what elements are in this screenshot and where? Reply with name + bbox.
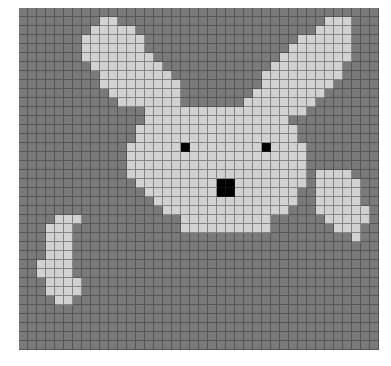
pixel-cell-light[interactable]	[280, 98, 289, 107]
pixel-cell-dark[interactable]	[64, 314, 73, 323]
pixel-cell-dark[interactable]	[100, 8, 109, 17]
pixel-cell-light[interactable]	[208, 107, 217, 116]
pixel-cell-dark[interactable]	[37, 314, 46, 323]
pixel-cell-dark[interactable]	[154, 215, 163, 224]
pixel-cell-dark[interactable]	[55, 62, 64, 71]
pixel-cell-light[interactable]	[100, 53, 109, 62]
pixel-cell-light[interactable]	[82, 53, 91, 62]
pixel-cell-dark[interactable]	[19, 233, 28, 242]
pixel-cell-dark[interactable]	[352, 71, 361, 80]
pixel-cell-dark[interactable]	[37, 80, 46, 89]
pixel-cell-light[interactable]	[163, 206, 172, 215]
pixel-cell-dark[interactable]	[352, 53, 361, 62]
pixel-cell-light[interactable]	[298, 62, 307, 71]
pixel-cell-light[interactable]	[244, 143, 253, 152]
pixel-cell-dark[interactable]	[127, 188, 136, 197]
pixel-cell-light[interactable]	[154, 107, 163, 116]
pixel-cell-dark[interactable]	[199, 89, 208, 98]
pixel-cell-dark[interactable]	[118, 116, 127, 125]
pixel-cell-dark[interactable]	[136, 188, 145, 197]
pixel-cell-light[interactable]	[145, 107, 154, 116]
pixel-cell-dark[interactable]	[154, 287, 163, 296]
pixel-cell-dark[interactable]	[370, 35, 379, 44]
pixel-cell-light[interactable]	[226, 107, 235, 116]
pixel-cell-dark[interactable]	[172, 17, 181, 26]
pixel-cell-dark[interactable]	[82, 287, 91, 296]
pixel-cell-dark[interactable]	[208, 314, 217, 323]
pixel-cell-light[interactable]	[343, 44, 352, 53]
pixel-cell-dark[interactable]	[307, 179, 316, 188]
pixel-cell-dark[interactable]	[127, 260, 136, 269]
pixel-cell-dark[interactable]	[55, 125, 64, 134]
pixel-cell-dark[interactable]	[307, 125, 316, 134]
pixel-cell-dark[interactable]	[370, 80, 379, 89]
pixel-cell-dark[interactable]	[235, 44, 244, 53]
pixel-cell-dark[interactable]	[73, 98, 82, 107]
pixel-cell-dark[interactable]	[361, 80, 370, 89]
pixel-cell-dark[interactable]	[208, 62, 217, 71]
pixel-cell-light[interactable]	[343, 26, 352, 35]
pixel-cell-dark[interactable]	[28, 296, 37, 305]
pixel-cell-dark[interactable]	[109, 179, 118, 188]
pixel-cell-dark[interactable]	[37, 161, 46, 170]
pixel-cell-dark[interactable]	[253, 332, 262, 341]
pixel-cell-light[interactable]	[280, 89, 289, 98]
pixel-cell-dark[interactable]	[37, 278, 46, 287]
pixel-cell-light[interactable]	[226, 161, 235, 170]
pixel-cell-light[interactable]	[145, 53, 154, 62]
pixel-cell-dark[interactable]	[334, 251, 343, 260]
pixel-cell-light[interactable]	[307, 71, 316, 80]
pixel-cell-dark[interactable]	[163, 296, 172, 305]
pixel-cell-dark[interactable]	[118, 188, 127, 197]
pixel-cell-dark[interactable]	[19, 44, 28, 53]
pixel-cell-dark[interactable]	[208, 53, 217, 62]
pixel-cell-dark[interactable]	[190, 233, 199, 242]
pixel-cell-dark[interactable]	[145, 197, 154, 206]
pixel-cell-dark[interactable]	[109, 197, 118, 206]
pixel-cell-light[interactable]	[289, 62, 298, 71]
pixel-cell-light[interactable]	[118, 80, 127, 89]
pixel-cell-dark[interactable]	[118, 260, 127, 269]
pixel-cell-dark[interactable]	[208, 269, 217, 278]
pixel-cell-dark[interactable]	[190, 332, 199, 341]
pixel-cell-dark[interactable]	[100, 278, 109, 287]
pixel-cell-light[interactable]	[280, 161, 289, 170]
pixel-cell-dark[interactable]	[46, 8, 55, 17]
pixel-cell-dark[interactable]	[37, 134, 46, 143]
pixel-cell-light[interactable]	[46, 260, 55, 269]
pixel-cell-dark[interactable]	[307, 278, 316, 287]
pixel-cell-dark[interactable]	[316, 287, 325, 296]
pixel-cell-dark[interactable]	[181, 26, 190, 35]
pixel-cell-dark[interactable]	[19, 341, 28, 350]
pixel-cell-dark[interactable]	[145, 26, 154, 35]
pixel-cell-dark[interactable]	[343, 116, 352, 125]
pixel-cell-dark[interactable]	[298, 116, 307, 125]
pixel-cell-dark[interactable]	[145, 278, 154, 287]
pixel-cell-dark[interactable]	[190, 341, 199, 350]
pixel-cell-dark[interactable]	[19, 62, 28, 71]
pixel-cell-dark[interactable]	[352, 332, 361, 341]
pixel-cell-light[interactable]	[298, 143, 307, 152]
pixel-cell-dark[interactable]	[244, 35, 253, 44]
pixel-cell-light[interactable]	[217, 125, 226, 134]
pixel-cell-dark[interactable]	[298, 206, 307, 215]
pixel-cell-dark[interactable]	[37, 125, 46, 134]
pixel-cell-dark[interactable]	[253, 251, 262, 260]
pixel-cell-dark[interactable]	[28, 98, 37, 107]
pixel-cell-dark[interactable]	[154, 296, 163, 305]
pixel-cell-dark[interactable]	[343, 89, 352, 98]
pixel-cell-dark[interactable]	[181, 62, 190, 71]
pixel-cell-dark[interactable]	[82, 170, 91, 179]
pixel-cell-dark[interactable]	[19, 26, 28, 35]
pixel-cell-light[interactable]	[136, 134, 145, 143]
pixel-cell-light[interactable]	[136, 62, 145, 71]
pixel-cell-light[interactable]	[208, 170, 217, 179]
pixel-cell-dark[interactable]	[127, 314, 136, 323]
pixel-cell-dark[interactable]	[190, 98, 199, 107]
pixel-cell-dark[interactable]	[316, 143, 325, 152]
pixel-cell-light[interactable]	[127, 161, 136, 170]
pixel-cell-dark[interactable]	[28, 314, 37, 323]
pixel-cell-dark[interactable]	[91, 287, 100, 296]
pixel-cell-dark[interactable]	[64, 71, 73, 80]
pixel-cell-dark[interactable]	[82, 161, 91, 170]
